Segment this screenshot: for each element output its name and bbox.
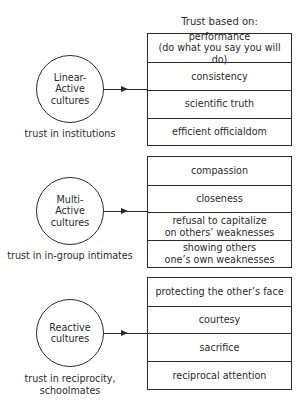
trust-item: efficient officialdom [148, 119, 291, 145]
caption-linear-active: trust in institutions [0, 128, 140, 140]
trust-item: closeness [148, 186, 291, 214]
circle-label-line: Active [51, 205, 90, 217]
trust-box-linear-active: performance (do what you say you will do… [147, 33, 292, 146]
trust-item-text: consistency [191, 71, 248, 83]
trust-item-text: on others’ weaknesses [165, 227, 275, 239]
trust-item: performance (do what you say you will do… [148, 34, 291, 63]
caption-reactive: trust in reciprocity, schoolmates [0, 373, 140, 397]
trust-item: scientific truth [148, 91, 291, 119]
trust-item: showing others one’s own weaknesses [148, 241, 291, 267]
trust-item: refusal to capitalize on others’ weaknes… [148, 213, 291, 241]
arrowhead-icon [121, 208, 128, 214]
circle-label-line: Reactive [49, 322, 90, 334]
trust-item: sacrifice [148, 334, 291, 362]
trust-item: courtesy [148, 307, 291, 335]
trust-item-text: efficient officialdom [172, 126, 267, 138]
circle-label-line: cultures [51, 95, 90, 107]
trust-item-text: reciprocal attention [173, 370, 267, 382]
caption-line: trust in institutions [25, 128, 116, 139]
caption-line: trust in reciprocity, [0, 373, 140, 385]
trust-item-text: compassion [191, 165, 248, 177]
circle-label-line: Linear- [51, 72, 90, 84]
caption-line: schoolmates [0, 385, 140, 397]
circle-label-line: Multi- [51, 194, 90, 206]
circle-reactive: Reactive cultures [36, 299, 104, 367]
trust-item: protecting the other’s face [148, 278, 291, 307]
trust-item-text: (do what you say you will do) [150, 42, 289, 65]
trust-item-text: one’s own weaknesses [165, 254, 275, 266]
circle-linear-active: Linear- Active cultures [36, 55, 104, 123]
header-trust-based-on: Trust based on: [147, 15, 292, 29]
trust-item-text: protecting the other’s face [155, 286, 283, 298]
trust-item: compassion [148, 157, 291, 186]
trust-item-text: closeness [196, 193, 243, 205]
trust-item-text: sacrifice [200, 342, 240, 354]
arrowhead-icon [121, 330, 128, 336]
arrowhead-icon [121, 86, 128, 92]
trust-item: reciprocal attention [148, 362, 291, 389]
trust-box-multi-active: compassion closeness refusal to capitali… [147, 156, 292, 268]
trust-item-text: showing others [165, 242, 275, 254]
trust-box-reactive: protecting the other’s face courtesy sac… [147, 277, 292, 390]
caption-line: trust in in-group intimates [7, 250, 133, 261]
caption-multi-active: trust in in-group intimates [0, 250, 140, 262]
trust-item-text: performance [150, 31, 289, 43]
trust-item-text: courtesy [199, 314, 241, 326]
trust-item: consistency [148, 63, 291, 91]
circle-label-line: Active [51, 83, 90, 95]
trust-item-text: refusal to capitalize [165, 215, 275, 227]
circle-label-line: cultures [49, 333, 90, 345]
circle-label-line: cultures [51, 217, 90, 229]
trust-item-text: scientific truth [185, 98, 254, 110]
circle-multi-active: Multi- Active cultures [36, 177, 104, 245]
